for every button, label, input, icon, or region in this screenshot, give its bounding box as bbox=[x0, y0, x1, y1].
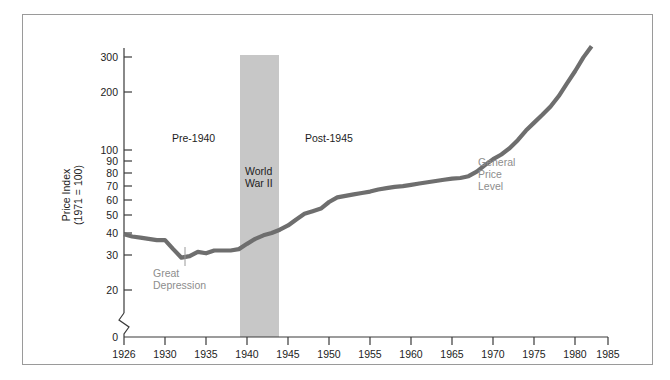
y-tick-label: 70 bbox=[106, 180, 118, 192]
x-tick-label: 1970 bbox=[481, 348, 505, 360]
y-axis-title-line1: Price Index bbox=[60, 168, 72, 221]
annotation-wwii-line2: War II bbox=[245, 177, 273, 189]
wwii-shaded-region bbox=[240, 55, 279, 337]
y-axis-ticks bbox=[124, 57, 132, 290]
annotation-general-price-level: General Price Level bbox=[478, 156, 515, 192]
x-tick-label: 1975 bbox=[522, 348, 546, 360]
y-tick-label: 80 bbox=[106, 167, 118, 179]
y-axis-title: Price Index (1971 = 100) bbox=[60, 165, 84, 225]
annotation-great-depression-line2: Depression bbox=[153, 279, 206, 291]
chart-figure: 300 200 100 90 80 70 60 50 40 30 20 0 bbox=[0, 0, 670, 380]
y-tick-label: 90 bbox=[106, 155, 118, 167]
x-tick-label: 1985 bbox=[596, 348, 620, 360]
x-axis-tick-labels: 1926 1930 1935 1940 1945 1950 1955 1960 … bbox=[112, 348, 620, 360]
x-tick-label: 1950 bbox=[317, 348, 341, 360]
x-tick-label: 1930 bbox=[153, 348, 177, 360]
annotation-pre-1940: Pre-1940 bbox=[172, 132, 215, 144]
x-tick-label: 1960 bbox=[399, 348, 423, 360]
annotation-world-war-ii: World War II bbox=[245, 165, 273, 189]
annotation-gpl-line3: Level bbox=[478, 180, 503, 192]
x-tick-label: 1926 bbox=[112, 348, 136, 360]
y-tick-label: 50 bbox=[106, 209, 118, 221]
y-origin-label: 0 bbox=[112, 331, 118, 343]
annotation-great-depression-line1: Great bbox=[153, 267, 179, 279]
y-axis-title-line2: (1971 = 100) bbox=[72, 165, 84, 225]
x-tick-label: 1965 bbox=[440, 348, 464, 360]
x-tick-label: 1945 bbox=[276, 348, 300, 360]
y-tick-label: 40 bbox=[106, 227, 118, 239]
y-tick-label: 30 bbox=[106, 249, 118, 261]
y-tick-label: 20 bbox=[106, 284, 118, 296]
x-tick-label: 1980 bbox=[563, 348, 587, 360]
y-tick-label: 200 bbox=[100, 86, 118, 98]
annotation-post-1945: Post-1945 bbox=[305, 132, 353, 144]
y-axis-tick-labels: 300 200 100 90 80 70 60 50 40 30 20 0 bbox=[100, 51, 118, 343]
y-tick-label: 300 bbox=[100, 51, 118, 63]
general-price-level-line bbox=[124, 46, 592, 258]
price-index-chart: 300 200 100 90 80 70 60 50 40 30 20 0 bbox=[0, 0, 670, 380]
y-axis-break-icon bbox=[119, 313, 129, 337]
annotation-gpl-line2: Price bbox=[478, 168, 502, 180]
x-axis-ticks bbox=[124, 337, 608, 345]
x-tick-label: 1940 bbox=[235, 348, 259, 360]
y-tick-label: 60 bbox=[106, 194, 118, 206]
x-tick-label: 1935 bbox=[194, 348, 218, 360]
annotation-wwii-line1: World bbox=[245, 165, 272, 177]
x-tick-label: 1955 bbox=[358, 348, 382, 360]
annotation-gpl-line1: General bbox=[478, 156, 515, 168]
